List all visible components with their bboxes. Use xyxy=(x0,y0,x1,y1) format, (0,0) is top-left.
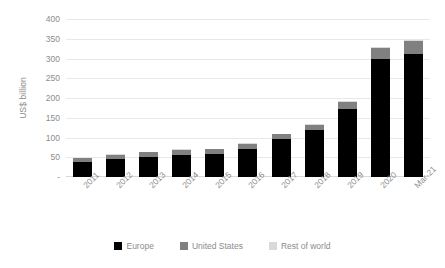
x-tick-cell: 2011 xyxy=(66,179,99,239)
bar-group[interactable] xyxy=(364,19,397,177)
x-tick-cell: 2014 xyxy=(165,179,198,239)
legend-label: United States xyxy=(192,241,243,251)
legend-swatch-icon xyxy=(269,242,277,250)
bar-stack[interactable] xyxy=(272,134,291,177)
x-tick-cell: 2015 xyxy=(198,179,231,239)
y-axis-tick-labels: 400 350 300 250 200 150 100 50 - xyxy=(30,0,60,200)
legend-label: Rest of world xyxy=(281,241,331,251)
chart-legend: EuropeUnited StatesRest of world xyxy=(0,237,445,255)
x-tick-cell: 2012 xyxy=(99,179,132,239)
bar-stack[interactable] xyxy=(338,101,357,177)
bar-group[interactable] xyxy=(331,19,364,177)
y-tick-label: 200 xyxy=(30,94,60,103)
bar-segment[interactable] xyxy=(338,102,357,109)
legend-swatch-icon xyxy=(114,242,122,250)
bar-segment[interactable] xyxy=(272,139,291,177)
bar-group[interactable] xyxy=(397,19,430,177)
plot-wrapper: 400 350 300 250 200 150 100 50 - 2011201… xyxy=(0,0,445,200)
bar-group[interactable] xyxy=(132,19,165,177)
legend-label: Europe xyxy=(126,241,153,251)
bar-segment[interactable] xyxy=(404,41,423,54)
bar-group[interactable] xyxy=(198,19,231,177)
plot-area xyxy=(66,19,430,177)
bar-segment[interactable] xyxy=(338,109,357,177)
bar-group[interactable] xyxy=(99,19,132,177)
bar-group[interactable] xyxy=(165,19,198,177)
x-tick-cell: 2016 xyxy=(231,179,264,239)
x-tick-cell: 2017 xyxy=(264,179,297,239)
x-tick-cell: Mar-21 xyxy=(397,179,430,239)
bar-segment[interactable] xyxy=(371,59,390,178)
y-tick-label: 350 xyxy=(30,34,60,43)
bar-segment[interactable] xyxy=(305,130,324,177)
bar-stack[interactable] xyxy=(371,47,390,177)
x-tick-cell: 2018 xyxy=(298,179,331,239)
bar-group[interactable] xyxy=(264,19,297,177)
bar-stack[interactable] xyxy=(404,40,423,177)
y-tick-label: 400 xyxy=(30,15,60,24)
legend-item[interactable]: Rest of world xyxy=(269,241,331,251)
legend-item[interactable]: Europe xyxy=(114,241,153,251)
bar-stack[interactable] xyxy=(305,124,324,177)
bar-group[interactable] xyxy=(298,19,331,177)
x-axis-tick-labels: 2011201220132014201520162017201820192020… xyxy=(66,179,430,239)
bar-group[interactable] xyxy=(66,19,99,177)
y-tick-label: 250 xyxy=(30,74,60,83)
legend-swatch-icon xyxy=(180,242,188,250)
x-tick-cell: 2013 xyxy=(132,179,165,239)
bar-stack[interactable] xyxy=(238,143,257,177)
y-tick-label: 300 xyxy=(30,54,60,63)
x-tick-cell: 2020 xyxy=(364,179,397,239)
bar-group[interactable] xyxy=(231,19,264,177)
bar-segment[interactable] xyxy=(371,48,390,59)
y-tick-label: 50 xyxy=(30,153,60,162)
stacked-bar-chart: US$ billion 400 350 300 250 200 150 100 … xyxy=(0,0,445,268)
y-tick-label: - xyxy=(30,173,60,182)
y-tick-label: 150 xyxy=(30,113,60,122)
bar-series-container xyxy=(66,19,430,177)
legend-item[interactable]: United States xyxy=(180,241,243,251)
x-tick-cell: 2019 xyxy=(331,179,364,239)
y-tick-label: 100 xyxy=(30,133,60,142)
bar-segment[interactable] xyxy=(404,54,423,177)
